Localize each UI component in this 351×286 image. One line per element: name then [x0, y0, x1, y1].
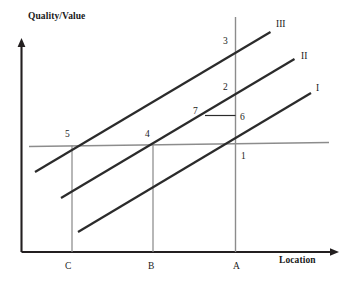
x-axis-arrow-icon	[330, 248, 339, 256]
point-label-3: 3	[223, 37, 228, 47]
point-label-4: 4	[145, 130, 150, 140]
x-axis-title: Location	[279, 256, 316, 266]
budget-line	[29, 143, 329, 147]
point-label-6: 6	[240, 113, 245, 123]
curve-label-III: III	[276, 20, 286, 30]
x-tick-label-B: B	[148, 262, 154, 272]
y-axis-title: Quality/Value	[28, 12, 85, 22]
line-II	[61, 59, 295, 198]
point-label-5: 5	[65, 130, 70, 140]
y-axis-arrow-icon	[18, 38, 26, 47]
chart-canvas	[0, 0, 351, 286]
point-label-1: 1	[241, 152, 246, 162]
parallel-lines-group	[35, 32, 311, 232]
x-tick-label-A: A	[233, 262, 240, 272]
curve-label-I: I	[316, 84, 319, 94]
point-label-2: 2	[223, 83, 228, 93]
curve-label-II: II	[301, 52, 307, 62]
axes-group	[18, 38, 339, 256]
x-tick-label-C: C	[65, 262, 71, 272]
point-label-7: 7	[193, 107, 198, 117]
